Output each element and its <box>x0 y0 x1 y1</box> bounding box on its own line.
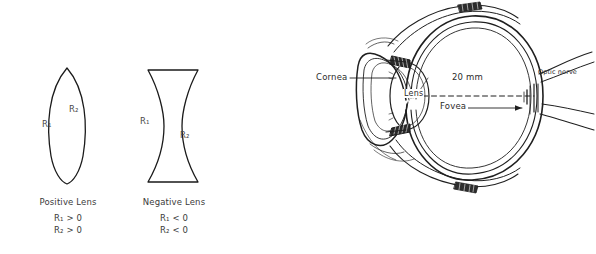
negative-lens-caption: Negative Lens R₁ < 0 R₂ < 0 <box>130 196 218 237</box>
eye-label-cornea: Cornea <box>316 72 348 82</box>
eye-anatomy-illustration <box>310 0 596 254</box>
positive-lens-condition-2: R₂ > 0 <box>24 224 112 237</box>
eye-cross-section-diagram: Cornea Lens 20 mm Fovea Optic nerve <box>310 0 596 254</box>
negative-lens-condition-2: R₂ < 0 <box>130 224 218 237</box>
eye-label-optic-nerve: Optic nerve <box>538 68 577 76</box>
negative-lens-figure: R₁ R₂ <box>143 68 203 184</box>
negative-lens-shape-icon <box>143 68 203 184</box>
diagram-page: R₁ R₂ Positive Lens R₁ > 0 R₂ > 0 R₁ R₂ … <box>0 0 596 254</box>
eye-label-lens: Lens <box>403 89 424 98</box>
positive-lens-condition-1: R₁ > 0 <box>24 212 112 225</box>
negative-lens-r1-label: R₁ <box>140 116 149 126</box>
negative-lens-title: Negative Lens <box>130 196 218 209</box>
positive-lens-r1-label: R₁ <box>42 119 51 129</box>
positive-lens-r2-label: R₂ <box>69 104 78 114</box>
eye-label-fovea: Fovea <box>438 101 468 111</box>
positive-lens-title: Positive Lens <box>24 196 112 209</box>
eye-label-dimension-20mm: 20 mm <box>450 72 485 82</box>
negative-lens-condition-1: R₁ < 0 <box>130 212 218 225</box>
positive-lens-caption: Positive Lens R₁ > 0 R₂ > 0 <box>24 196 112 237</box>
negative-lens-r2-label: R₂ <box>180 130 189 140</box>
positive-lens-figure: R₁ R₂ <box>38 66 96 186</box>
